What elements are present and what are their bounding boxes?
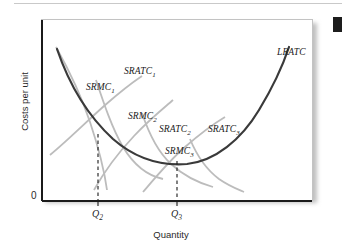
curve-label-srmc-2: SRMC2: [128, 111, 157, 124]
tick-label-q2: Q2: [92, 208, 103, 222]
x-axis-label: Quantity: [0, 229, 342, 240]
tick-label-q3: Q3: [171, 208, 182, 222]
curve-label-srmc-3: SRMC3: [165, 146, 194, 159]
y-axis-label: Costs per unit: [19, 62, 30, 142]
curve-sratc-4: [190, 139, 244, 192]
origin-label: 0: [31, 190, 37, 201]
curve-label-sratc-2: SRATC2: [159, 124, 191, 137]
curve-label-sratc-3: SRATC3: [208, 124, 240, 137]
curve-label-lratc: LRATC: [277, 47, 306, 57]
curve-label-sratc-1: SRATC1: [124, 66, 156, 79]
economics-cost-curve-figure: Costs per unit Quantity 0 Q2 Q3 SRMC1 SR…: [0, 0, 342, 247]
curve-label-srmc-1: SRMC1: [86, 82, 115, 95]
